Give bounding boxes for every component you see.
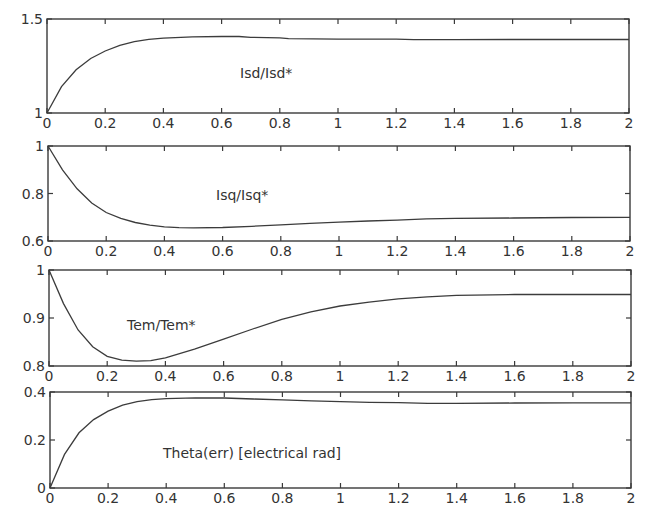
x-tick-label: 1 bbox=[336, 368, 345, 384]
x-tick-label: 0.8 bbox=[269, 115, 291, 131]
annotation-tem: Tem/Tem* bbox=[126, 317, 196, 333]
subplot-tem: 00.20.40.60.811.21.41.61.820.80.91Tem/Te… bbox=[23, 262, 636, 384]
subplot-stack: 00.20.40.60.811.21.41.61.8211.5Isd/Isd*0… bbox=[0, 0, 650, 528]
x-tick-label: 1.2 bbox=[387, 368, 409, 384]
x-tick-label: 1.6 bbox=[504, 490, 526, 506]
y-tick-label: 0.8 bbox=[23, 358, 45, 374]
x-tick-label: 1.4 bbox=[443, 115, 465, 131]
x-tick-label: 0.4 bbox=[155, 490, 177, 506]
y-tick-label: 0 bbox=[37, 480, 46, 496]
figure: 00.20.40.60.811.21.41.61.8211.5Isd/Isd*0… bbox=[0, 0, 650, 528]
x-tick-label: 1.2 bbox=[386, 243, 408, 259]
x-tick-label: 0.8 bbox=[270, 243, 292, 259]
x-tick-label: 0.6 bbox=[211, 243, 233, 259]
axes-frame bbox=[48, 146, 630, 241]
x-tick-label: 2 bbox=[627, 490, 636, 506]
annotation-isd: Isd/Isd* bbox=[240, 65, 292, 81]
y-tick-label: 1.5 bbox=[21, 11, 43, 27]
y-tick-label: 1 bbox=[34, 105, 43, 121]
x-tick-label: 0.2 bbox=[96, 368, 118, 384]
x-tick-label: 0.6 bbox=[213, 490, 235, 506]
subplot-theta: 00.20.40.60.811.21.41.61.8200.20.4Theta(… bbox=[24, 384, 636, 506]
axes-frame bbox=[50, 392, 631, 488]
x-tick-label: 0 bbox=[44, 243, 53, 259]
x-tick-label: 2 bbox=[627, 368, 636, 384]
y-tick-label: 0.8 bbox=[22, 186, 44, 202]
x-tick-label: 1.6 bbox=[502, 243, 524, 259]
x-tick-label: 0 bbox=[45, 368, 54, 384]
x-tick-label: 1 bbox=[336, 490, 345, 506]
series-line-tem bbox=[49, 270, 631, 361]
x-tick-label: 0 bbox=[46, 490, 55, 506]
y-tick-label: 1 bbox=[35, 138, 44, 154]
x-tick-label: 0 bbox=[43, 115, 52, 131]
axes-frame bbox=[47, 19, 629, 113]
x-tick-label: 0.6 bbox=[210, 115, 232, 131]
x-tick-label: 0.4 bbox=[153, 243, 175, 259]
subplot-isd: 00.20.40.60.811.21.41.61.8211.5Isd/Isd* bbox=[21, 11, 634, 131]
x-tick-label: 0.4 bbox=[154, 368, 176, 384]
subplot-isq: 00.20.40.60.811.21.41.61.820.60.81Isq/Is… bbox=[22, 138, 635, 259]
x-tick-label: 1.2 bbox=[385, 115, 407, 131]
y-tick-label: 0.9 bbox=[23, 310, 45, 326]
series-line-isd bbox=[47, 37, 629, 114]
x-tick-label: 1.8 bbox=[562, 490, 584, 506]
x-tick-label: 0.2 bbox=[95, 243, 117, 259]
x-tick-label: 0.2 bbox=[97, 490, 119, 506]
y-tick-label: 1 bbox=[36, 262, 45, 278]
x-tick-label: 0.2 bbox=[94, 115, 116, 131]
series-line-isq bbox=[48, 146, 630, 228]
x-tick-label: 1.4 bbox=[446, 490, 468, 506]
x-tick-label: 1.8 bbox=[562, 368, 584, 384]
x-tick-label: 1 bbox=[334, 115, 343, 131]
x-tick-label: 0.8 bbox=[271, 368, 293, 384]
x-tick-label: 1 bbox=[335, 243, 344, 259]
x-tick-label: 1.8 bbox=[561, 243, 583, 259]
x-tick-label: 2 bbox=[626, 243, 635, 259]
x-tick-label: 1.6 bbox=[501, 115, 523, 131]
x-tick-label: 0.4 bbox=[152, 115, 174, 131]
x-tick-label: 0.6 bbox=[212, 368, 234, 384]
x-tick-label: 0.8 bbox=[271, 490, 293, 506]
y-tick-label: 0.4 bbox=[24, 384, 46, 400]
x-tick-label: 1.4 bbox=[445, 368, 467, 384]
y-tick-label: 0.6 bbox=[22, 233, 44, 249]
y-tick-label: 0.2 bbox=[24, 432, 46, 448]
annotation-isq: Isq/Isq* bbox=[216, 187, 268, 203]
x-tick-label: 2 bbox=[625, 115, 634, 131]
x-tick-label: 1.2 bbox=[387, 490, 409, 506]
x-tick-label: 1.6 bbox=[503, 368, 525, 384]
series-line-theta bbox=[50, 398, 631, 488]
x-tick-label: 1.8 bbox=[560, 115, 582, 131]
x-tick-label: 1.4 bbox=[444, 243, 466, 259]
annotation-theta: Theta(err) [electrical rad] bbox=[162, 445, 341, 461]
